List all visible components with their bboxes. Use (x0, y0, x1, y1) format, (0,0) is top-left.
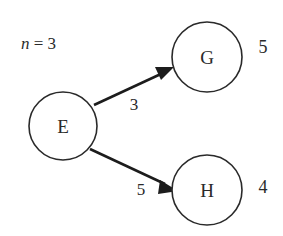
diagram-canvas: E G H 3 5 5 4 n = 3 (0, 0, 283, 236)
node-g-side-value: 5 (259, 37, 268, 57)
annotation-value: 3 (48, 34, 57, 53)
edge-e-to-h (90, 149, 178, 194)
node-h-side-value: 4 (259, 177, 268, 197)
graph-svg: E G H 3 5 5 4 n = 3 (0, 0, 283, 236)
node-g-label: G (200, 47, 214, 68)
arrowhead-e-g (155, 67, 174, 80)
annotation-equals: = (30, 34, 48, 53)
node-h-label: H (200, 180, 214, 201)
node-g[interactable]: G (172, 22, 242, 92)
node-e[interactable]: E (29, 92, 97, 160)
edge-weight-e-g: 3 (130, 95, 139, 114)
annotation-variable: n (21, 34, 30, 53)
node-h[interactable]: H (172, 155, 242, 225)
edge-line-e-h (90, 149, 165, 184)
node-e-label: E (57, 116, 69, 137)
edge-weight-e-h: 5 (137, 180, 146, 199)
annotation-n-equals: n = 3 (21, 34, 56, 53)
edge-line-e-g (94, 73, 163, 105)
